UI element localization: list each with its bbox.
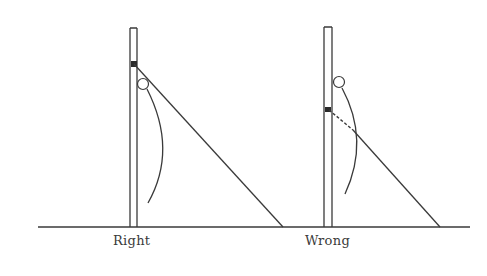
- panel-wrong: [324, 27, 440, 227]
- panel-right: [130, 28, 283, 227]
- guy-wire: [353, 130, 440, 227]
- bent-spar-curve: [342, 88, 357, 194]
- label-right: Right: [113, 233, 150, 248]
- guy-wire: [134, 64, 283, 227]
- ring: [334, 77, 345, 88]
- ring: [138, 79, 149, 90]
- pole-guy-wire-diagram: [0, 0, 487, 276]
- bent-spar-curve: [147, 89, 163, 203]
- label-wrong: Wrong: [305, 233, 350, 248]
